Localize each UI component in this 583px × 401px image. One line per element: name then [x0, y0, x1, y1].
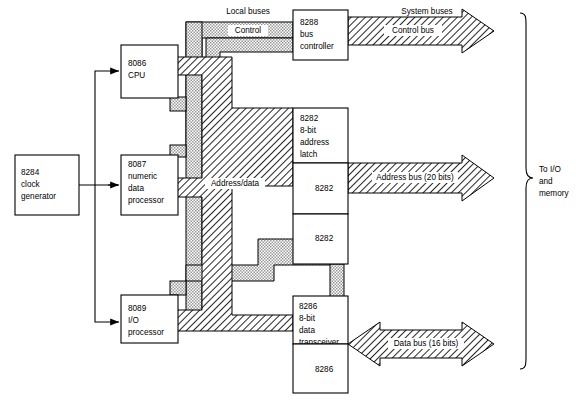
block-8288-line-1: bus	[300, 30, 313, 39]
block-8282a-line-3: latch	[300, 150, 318, 159]
control-label: Control	[228, 25, 268, 36]
local-buses-text: Local buses	[226, 7, 270, 16]
control-stub-iop	[170, 281, 186, 295]
block-8286a-line-0: 8286	[299, 302, 318, 311]
block-8087-line-1: numeric	[128, 172, 157, 181]
destination-label: To I/O and memory	[539, 165, 569, 198]
block-8284-clock-generator[interactable]: 8284 clock generator	[15, 155, 79, 215]
address-data-label: Address/data	[205, 178, 265, 189]
block-8282b-line-0: 8282	[315, 184, 334, 193]
block-8288-bus-controller[interactable]: 8288 bus controller	[293, 10, 348, 60]
destination-line-1: and	[539, 177, 553, 186]
clock-line-to-cpu	[95, 71, 114, 185]
block-8087-line-3: processor	[128, 196, 164, 205]
block-8087-line-2: data	[128, 184, 144, 193]
block-8284-line-1: clock	[21, 180, 41, 189]
block-8282a-line-1: 8-bit	[300, 126, 317, 135]
block-8089-io-processor[interactable]: 8089 I/O processor	[121, 295, 178, 343]
destination-line-0: To I/O	[539, 165, 561, 174]
block-8282-address-latch-2[interactable]: 8282	[293, 163, 348, 214]
block-8288-line-2: controller	[300, 42, 334, 51]
block-8282a-line-0: 8282	[300, 114, 319, 123]
block-8282-address-latch-3[interactable]: 8282	[293, 214, 348, 264]
clock-line-to-iop	[95, 185, 114, 322]
block-8089-line-0: 8089	[128, 304, 147, 313]
block-8288-line-0: 8288	[300, 18, 319, 27]
block-8282a-line-2: address	[300, 138, 329, 147]
block-8089-line-2: processor	[128, 328, 164, 337]
block-8286-data-transceiver-2[interactable]: 8286	[293, 344, 348, 393]
control-bus-text: Control bus	[392, 26, 434, 35]
block-8086-cpu[interactable]: 8086 CPU	[121, 45, 178, 98]
block-8086-line-1: CPU	[128, 71, 145, 80]
block-8286a-line-1: 8-bit	[299, 314, 316, 323]
local-buses-label: Local buses	[226, 7, 270, 16]
address-data-text: Address/data	[211, 179, 260, 188]
block-8286b-line-0: 8286	[315, 365, 334, 374]
destination-brace	[520, 13, 533, 369]
block-diagram-svg: Address/data Control bus Address bus (20…	[0, 0, 583, 401]
block-8087-numeric-data-processor[interactable]: 8087 numeric data processor	[121, 155, 178, 215]
block-8087-line-0: 8087	[128, 160, 147, 169]
block-8089-line-1: I/O	[128, 316, 139, 325]
control-stub-cpu	[170, 97, 186, 111]
block-8286-data-transceiver-1[interactable]: 8286 8-bit data transceiver	[293, 296, 348, 347]
clock-distribution	[79, 71, 119, 322]
system-buses-text: System buses	[401, 7, 452, 16]
system-buses-label: System buses	[401, 7, 452, 16]
block-8282c-line-0: 8282	[315, 234, 334, 243]
control-run-xcvr	[330, 264, 344, 297]
block-8282-address-latch-1[interactable]: 8282 8-bit address latch	[293, 108, 348, 163]
block-8284-line-0: 8284	[21, 168, 40, 177]
destination-line-2: memory	[539, 189, 569, 198]
diagram-canvas: Address/data Control bus Address bus (20…	[0, 0, 583, 401]
block-8284-line-2: generator	[21, 192, 56, 201]
data-bus-arrow: Data bus (16 bits)	[348, 322, 494, 366]
address-bus-arrow: Address bus (20 bits)	[348, 155, 494, 201]
block-8086-line-0: 8086	[128, 59, 147, 68]
block-8286a-line-2: data	[299, 326, 315, 335]
address-bus-text: Address bus (20 bits)	[376, 173, 454, 182]
control-text: Control	[235, 26, 262, 35]
data-bus-text: Data bus (16 bits)	[394, 339, 459, 348]
